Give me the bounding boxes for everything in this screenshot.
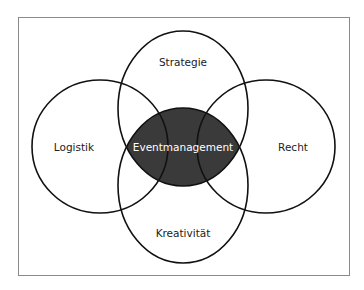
label-logistik: Logistik xyxy=(54,141,95,153)
label-center: Eventmanagement xyxy=(133,141,233,153)
label-strategie: Strategie xyxy=(159,56,207,68)
venn-diagram: Strategie Logistik Recht Kreativität Eve… xyxy=(0,0,364,290)
label-kreativitaet: Kreativität xyxy=(156,227,211,239)
label-recht: Recht xyxy=(278,141,308,153)
